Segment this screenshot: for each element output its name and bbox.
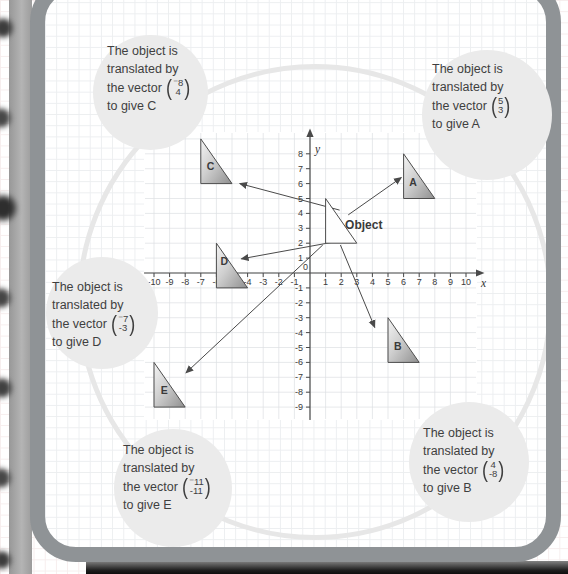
callout-line: to give D <box>52 333 158 351</box>
y-tick-label: 4 <box>298 208 303 218</box>
callout-translation-C: The object is translated by the vector (… <box>93 35 208 150</box>
callout-line: to give A <box>432 115 552 133</box>
x-axis-letter: x <box>480 277 487 289</box>
callout-line: the vector <box>432 97 487 115</box>
x-tick-label: 4 <box>370 277 375 287</box>
x-tick-label: 6 <box>401 277 406 287</box>
callout-line: translated by <box>107 60 208 78</box>
callout-translation-A: The object is translated by the vector (… <box>422 50 552 180</box>
open-paren: ( <box>111 313 117 334</box>
x-tick-label: 10 <box>461 277 471 287</box>
callout-vector-line: the vector ( ⁻7-3 ) <box>52 315 158 333</box>
close-paren: ) <box>205 476 211 497</box>
x-tick-label: 5 <box>385 277 390 287</box>
callout-line: The object is <box>423 424 529 442</box>
x-tick-label: 9 <box>448 277 453 287</box>
label-D: D <box>220 255 228 267</box>
x-tick-label: -3 <box>259 277 267 287</box>
callout-translation-B: The object is translated by the vector (… <box>409 402 529 522</box>
label-A: A <box>409 176 417 188</box>
callout-line: to give E <box>123 496 232 514</box>
y-tick-label: 6 <box>298 179 303 189</box>
label-Object: Object <box>345 218 382 232</box>
y-tick-label: 5 <box>298 194 303 204</box>
callout-translation-D: The object is translated by the vector (… <box>46 257 158 369</box>
y-axis-letter: y <box>314 143 321 156</box>
open-paren: ( <box>166 77 172 98</box>
label-B: B <box>394 340 402 352</box>
column-vector: ( 53 ) <box>491 97 510 115</box>
label-E: E <box>161 384 168 396</box>
callout-line: the vector <box>107 79 162 97</box>
callout-line: the vector <box>52 315 107 333</box>
close-paren: ) <box>184 77 190 98</box>
callout-translation-E: The object is translated by the vector (… <box>114 429 232 547</box>
x-tick-label: -9 <box>166 277 174 287</box>
close-paren: ) <box>504 95 510 116</box>
open-paren: ( <box>491 95 497 116</box>
x-tick-label: 1 <box>323 277 328 287</box>
open-paren: ( <box>182 476 188 497</box>
origin-label: 0 <box>303 262 308 272</box>
y-tick-label: 8 <box>298 149 303 159</box>
vector-bottom: -8 <box>489 470 497 479</box>
vector-bottom: 3 <box>498 106 503 115</box>
callout-line: The object is <box>107 42 208 60</box>
callout-line: The object is <box>432 60 552 78</box>
callout-line: The object is <box>52 278 158 296</box>
y-tick-label: 2 <box>298 238 303 248</box>
x-tick-label: -8 <box>181 277 189 287</box>
x-axis-arrowhead <box>476 269 485 276</box>
y-tick-label: 3 <box>298 223 303 233</box>
y-tick-label: -8 <box>295 387 303 397</box>
vector-bottom: -11 <box>190 487 203 496</box>
column-vector: ( ⁻11-11 ) <box>182 478 211 496</box>
column-vector: ( ⁻7-3 ) <box>111 315 135 333</box>
vector-bottom: -3 <box>119 324 127 333</box>
column-vector: ( 4-8 ) <box>482 461 504 479</box>
y-tick-label: -4 <box>295 328 303 338</box>
x-tick-label: 8 <box>432 277 437 287</box>
vector-bottom: 4 <box>175 88 180 97</box>
y-tick-label: -5 <box>295 343 303 353</box>
y-tick-label: -6 <box>295 357 303 367</box>
callout-vector-line: the vector ( 4-8 ) <box>423 461 529 479</box>
y-tick-label: -9 <box>295 402 303 412</box>
label-C: C <box>207 160 215 172</box>
y-tick-label: 7 <box>298 164 303 174</box>
callout-line: to give B <box>423 479 529 497</box>
y-tick-label: -7 <box>295 372 303 382</box>
callout-line: the vector <box>423 461 478 479</box>
x-tick-label: 7 <box>417 277 422 287</box>
callout-vector-line: the vector ( ⁻84 ) <box>107 79 208 97</box>
open-paren: ( <box>482 459 488 480</box>
close-paren: ) <box>498 459 504 480</box>
x-tick-label: 2 <box>339 277 344 287</box>
y-tick-label: -3 <box>295 313 303 323</box>
x-tick-label: -7 <box>197 277 205 287</box>
callout-line: translated by <box>52 296 158 314</box>
callout-line: translated by <box>423 442 529 460</box>
callout-vector-line: the vector ( ⁻11-11 ) <box>123 478 232 496</box>
callout-line: The object is <box>123 441 232 459</box>
column-vector: ( ⁻84 ) <box>166 79 190 97</box>
callout-line: translated by <box>123 459 232 477</box>
callout-line: the vector <box>123 478 178 496</box>
callout-vector-line: the vector ( 53 ) <box>432 97 552 115</box>
close-paren: ) <box>129 313 135 334</box>
y-tick-label: -1 <box>295 283 303 293</box>
callout-line: to give C <box>107 97 208 115</box>
book-page-photo: { "page": { "background": "#ffffff" }, "… <box>0 0 568 574</box>
y-tick-label: -2 <box>295 298 303 308</box>
